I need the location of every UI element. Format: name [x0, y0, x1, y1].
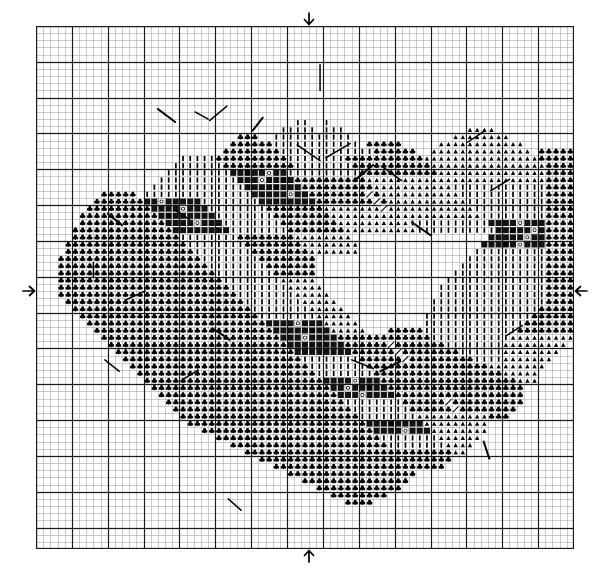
bottom-center-arrow: [301, 547, 317, 563]
cross-stitch-chart[interactable]: [36, 26, 574, 549]
pattern-sheet: [0, 0, 606, 580]
top-center-arrow: [301, 12, 317, 28]
chart-backstitch-layer: [36, 26, 574, 549]
left-center-arrow: [22, 283, 38, 299]
right-center-arrow: [572, 283, 588, 299]
